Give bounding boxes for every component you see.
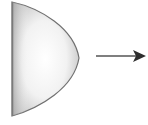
diagram-svg — [0, 0, 148, 125]
arrow-right-icon — [96, 50, 146, 62]
paraboloid-shape — [12, 2, 79, 116]
diagram-canvas — [0, 0, 148, 125]
